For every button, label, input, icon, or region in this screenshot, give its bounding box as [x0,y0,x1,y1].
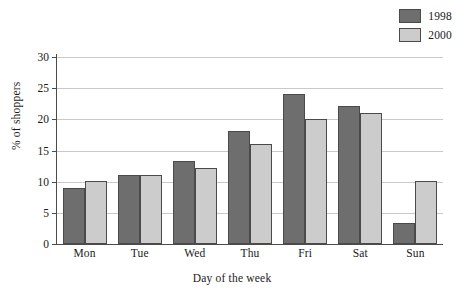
legend-label-2000: 2000 [428,28,452,42]
y-tick-label: 5 [43,207,49,219]
bar-sat-1998 [338,106,360,244]
bar-sun-2000 [415,181,437,244]
bar-thu-2000 [250,144,272,244]
bar-group [118,57,162,244]
y-tick-label: 10 [38,176,50,188]
bar-fri-1998 [283,94,305,244]
y-tick-label: 15 [38,145,50,157]
bar-sat-2000 [360,113,382,244]
bar-thu-1998 [228,131,250,244]
legend-label-1998: 1998 [428,9,452,23]
legend-item-2000: 2000 [399,27,452,42]
x-tick-label-sun: Sun [406,247,425,259]
legend-swatch-2000 [399,28,421,42]
x-tick-label-wed: Wed [184,247,205,259]
y-tick-label: 25 [38,82,50,94]
bar-group [393,57,437,244]
legend-item-1998: 1998 [399,8,452,23]
bar-mon-2000 [85,181,107,244]
bar-group [63,57,107,244]
bar-tue-2000 [140,175,162,244]
bar-fri-2000 [305,119,327,244]
x-tick-label-mon: Mon [73,247,95,259]
bar-group [283,57,327,244]
x-axis-title: Day of the week [0,272,464,284]
bar-mon-1998 [63,188,85,244]
bar-group [173,57,217,244]
bar-group [338,57,382,244]
x-tick-label-fri: Fri [298,247,312,259]
legend-swatch-1998 [399,9,421,23]
bar-wed-2000 [195,168,217,244]
x-tick-label-sat: Sat [353,247,368,259]
bar-groups [57,57,443,244]
bar-tue-1998 [118,175,140,244]
x-tick-label-thu: Thu [240,247,259,259]
y-tick-label: 0 [43,238,49,250]
y-axis-title: % of shoppers [10,82,22,150]
bar-group [228,57,272,244]
x-tick-label-tue: Tue [131,247,149,259]
bar-sun-1998 [393,223,415,244]
bar-chart: 1998 2000 % of shoppers 051015202530 Mon… [0,0,464,297]
y-tick-label: 20 [38,113,50,125]
chart-legend: 1998 2000 [399,8,452,42]
y-tick-mark [52,244,57,245]
y-tick-label: 30 [38,51,50,63]
bar-wed-1998 [173,161,195,244]
plot-area: 051015202530 MonTueWedThuFriSatSun [57,57,443,244]
